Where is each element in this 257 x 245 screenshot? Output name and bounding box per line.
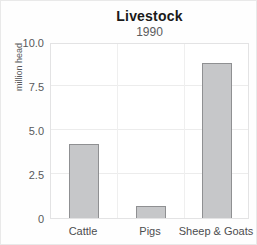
bar-pigs [136,206,166,218]
y-axis-label: million head [14,43,24,105]
y-tick-label: 0 [4,214,44,225]
livestock-bar-chart: Livestock 1990 million head 02.55.07.510… [0,0,257,245]
y-tick-label: 10.0 [4,38,44,49]
bar-sheep-goats [202,63,232,218]
chart-subtitle: 1990 [50,25,249,39]
bar-cattle [69,144,99,218]
y-tick-label: 2.5 [4,170,44,181]
plot-area [50,43,249,219]
vertical-gridline [184,44,185,218]
chart-title: Livestock [50,8,249,24]
y-tick-label: 7.5 [4,82,44,93]
vertical-gridline [117,44,118,218]
x-tick-label: Sheep & Goats [156,225,257,237]
y-tick-label: 5.0 [4,126,44,137]
